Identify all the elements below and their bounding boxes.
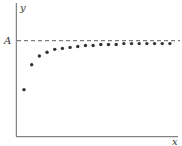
data-point	[76, 45, 79, 48]
data-point	[22, 88, 25, 91]
data-point	[107, 43, 110, 46]
data-point	[99, 43, 102, 46]
data-point	[61, 47, 64, 50]
data-point	[168, 42, 171, 45]
data-point	[114, 43, 117, 46]
data-point	[122, 42, 125, 45]
data-point	[91, 44, 94, 47]
data-point	[45, 51, 48, 54]
data-point	[68, 46, 71, 49]
data-point	[130, 42, 133, 45]
data-point	[161, 42, 164, 45]
asymptote-label: A	[3, 35, 11, 46]
chart: y x A	[0, 0, 182, 146]
data-point	[30, 63, 33, 66]
data-point	[53, 48, 56, 51]
data-point	[38, 54, 41, 57]
data-point	[153, 42, 156, 45]
plot-points	[22, 42, 171, 91]
data-point	[138, 42, 141, 45]
x-axis-label: x	[172, 136, 178, 146]
y-axis-label: y	[19, 2, 26, 13]
data-point	[145, 42, 148, 45]
data-point	[84, 44, 87, 47]
